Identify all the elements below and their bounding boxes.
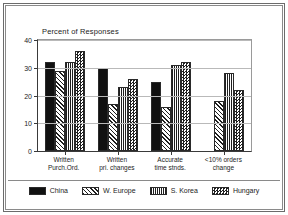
bar (214, 101, 224, 151)
legend-item[interactable]: Hungary (212, 187, 259, 195)
x-axis-tick-mark (65, 151, 66, 155)
y-axis-tick-label: 10 (24, 120, 32, 127)
x-axis-label-line2: Purch.Ord. (48, 164, 79, 172)
bar (128, 79, 138, 151)
legend-label: S. Korea (171, 187, 198, 194)
bar (234, 90, 244, 151)
bar (65, 62, 75, 151)
legend-swatch (150, 187, 167, 195)
legend-label: W. Europe (103, 187, 136, 194)
legend-swatch (82, 187, 99, 195)
gridline (38, 40, 251, 41)
x-axis-category-label: WrittenPurch.Ord. (48, 156, 79, 172)
gridline (38, 96, 251, 97)
y-axis-tick-label: 0 (28, 148, 32, 155)
bar (108, 104, 118, 151)
bar (151, 82, 161, 151)
x-axis-label-line1: Written (53, 156, 73, 163)
bar (161, 107, 171, 151)
x-axis-label-line1: <10% orders (205, 156, 242, 163)
bar (98, 68, 108, 151)
bar (118, 87, 128, 151)
x-axis-category-label: Accuratetime stnds. (154, 156, 185, 172)
chart-figure: Percent of Responses 010203040 WrittenPu… (0, 0, 288, 215)
bar (181, 62, 191, 151)
x-axis-tick-mark (118, 151, 119, 155)
plot-area: 010203040 (37, 39, 252, 152)
gridline (38, 123, 251, 124)
x-axis-label-line2: time stnds. (154, 164, 185, 172)
legend-item[interactable]: China (29, 187, 68, 195)
x-axis-tick-mark (224, 151, 225, 155)
chart-title: Percent of Responses (42, 27, 119, 36)
x-axis-tick-mark (171, 151, 172, 155)
y-axis-tick-label: 30 (24, 64, 32, 71)
legend-label: Hungary (233, 187, 259, 194)
legend-item[interactable]: W. Europe (82, 187, 136, 195)
bar (55, 71, 65, 151)
y-axis-tick-mark (34, 123, 38, 124)
y-axis-tick-label: 40 (24, 37, 32, 44)
y-axis-tick-mark (34, 68, 38, 69)
x-axis-label-line2: pri. changes (99, 164, 134, 172)
x-axis-label-line2: change (205, 164, 242, 172)
legend-swatch (29, 187, 46, 195)
bar (171, 65, 181, 151)
y-axis-tick-mark (34, 40, 38, 41)
x-axis-label-line1: Accurate (157, 156, 183, 163)
y-axis-tick-mark (34, 151, 38, 152)
bar (45, 62, 55, 151)
legend-swatch (212, 187, 229, 195)
bar (224, 73, 234, 151)
x-axis-category-label: <10% orderschange (205, 156, 242, 172)
bar (75, 51, 85, 151)
x-axis-label-line1: Written (107, 156, 127, 163)
chart-legend: ChinaW. EuropeS. KoreaHungary (8, 180, 280, 200)
gridline (38, 68, 251, 69)
legend-label: China (50, 187, 68, 194)
y-axis-tick-mark (34, 96, 38, 97)
x-axis-category-label: Writtenpri. changes (99, 156, 134, 172)
y-axis-tick-label: 20 (24, 92, 32, 99)
legend-item[interactable]: S. Korea (150, 187, 198, 195)
